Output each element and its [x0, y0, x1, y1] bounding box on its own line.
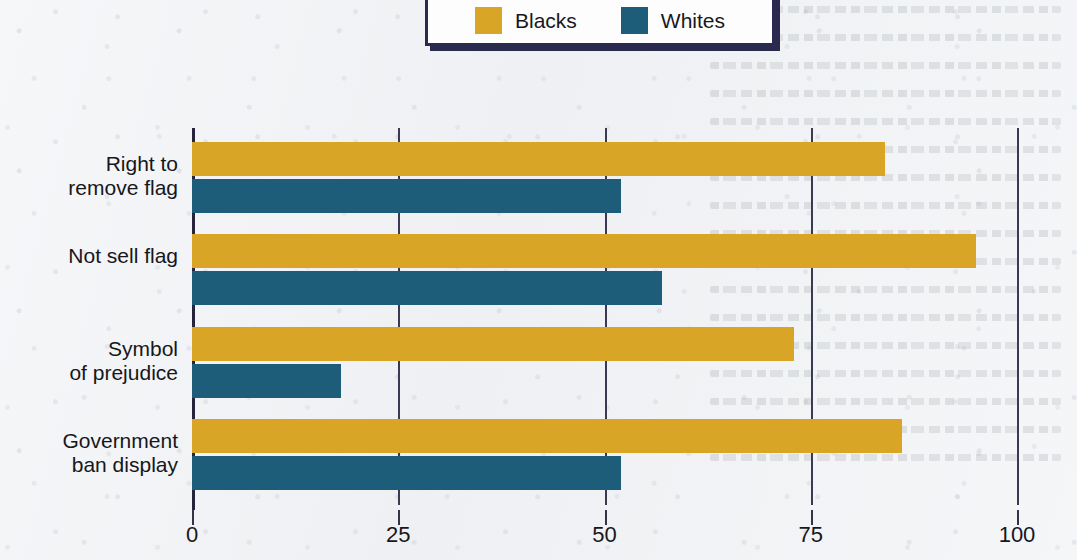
category-label-right-to-remove-flag: Right to remove flag — [0, 152, 178, 202]
legend-label-whites: Whites — [661, 10, 725, 31]
x-tick-label-25: 25 — [386, 524, 410, 546]
bar-whites-group-3 — [192, 364, 341, 398]
category-label-not-sell-flag: Not sell flag — [0, 244, 178, 269]
legend-swatch-blacks — [475, 7, 502, 34]
legend-entry-whites: Whites — [621, 7, 725, 34]
bar-blacks-group-1 — [192, 142, 885, 176]
legend-swatch-whites — [621, 7, 648, 34]
grouped-bar-chart: Blacks Whites Right to remove flag Not s… — [0, 0, 1077, 560]
category-label-symbol-of-prejudice: Symbol of prejudice — [0, 337, 178, 387]
bar-blacks-group-3 — [192, 327, 794, 361]
legend-entry-blacks: Blacks — [475, 7, 577, 34]
bar-whites-group-2 — [192, 271, 662, 305]
x-tick-label-0: 0 — [186, 524, 198, 546]
legend-label-blacks: Blacks — [515, 10, 577, 31]
bar-whites-group-4 — [192, 456, 621, 490]
bar-blacks-group-2 — [192, 234, 976, 268]
gridline-100 — [1017, 128, 1019, 505]
x-tick-label-100: 100 — [999, 524, 1036, 546]
bar-blacks-group-4 — [192, 419, 902, 453]
category-label-government-ban-display: Government ban display — [0, 429, 178, 479]
bar-whites-group-1 — [192, 179, 621, 213]
chart-legend: Blacks Whites — [425, 0, 775, 46]
x-tick-label-50: 50 — [592, 524, 616, 546]
x-tick-label-75: 75 — [799, 524, 823, 546]
plot-area — [192, 128, 1017, 505]
